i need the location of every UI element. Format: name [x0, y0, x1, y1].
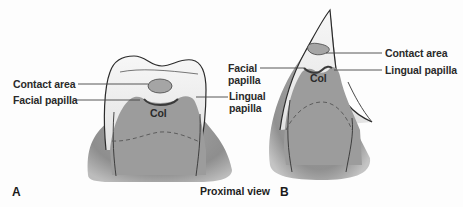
label-contact-area-B: Contact area	[385, 48, 447, 59]
label-lingual-papilla-B: Lingual papilla	[385, 65, 457, 76]
molar-tooth-A	[76, 56, 232, 182]
label-facial-papilla-B-line2: papilla	[228, 75, 261, 86]
label-lingual-papilla-A-line1: Lingual	[229, 91, 266, 102]
label-col-B: Col	[310, 73, 327, 84]
panel-label-A: A	[12, 185, 21, 199]
label-facial-papilla-B-line1: Facial	[228, 63, 257, 74]
label-facial-papilla-A: Facial papilla	[13, 95, 78, 106]
label-contact-area-A: Contact area	[13, 79, 75, 90]
dental-papilla-diagram: Contact area Facial papilla Lingual papi…	[0, 0, 463, 207]
canine-tooth-B	[260, 10, 382, 180]
label-lingual-papilla-A-line2: papilla	[229, 103, 262, 114]
label-col-A: Col	[150, 108, 167, 119]
figure-caption: Proximal view	[200, 185, 270, 197]
panel-label-B: B	[280, 185, 289, 199]
